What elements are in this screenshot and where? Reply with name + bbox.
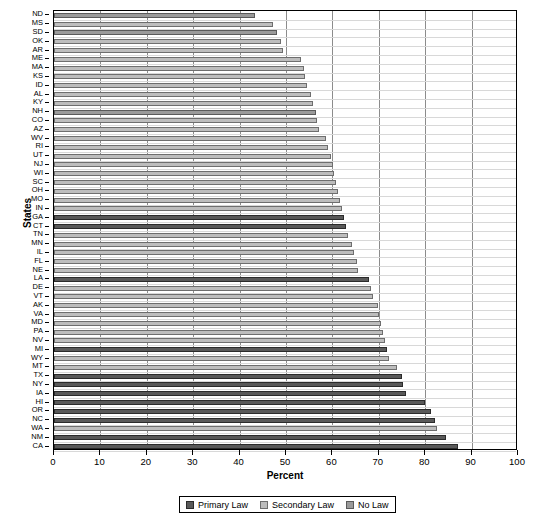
- y-tick-mark: [45, 190, 49, 191]
- row-separator: [54, 222, 516, 223]
- y-tick-mark: [45, 340, 49, 341]
- y-tick-label-sd: SD: [33, 28, 43, 36]
- y-tick-mark: [45, 102, 49, 103]
- y-tick-label-tn: TN: [33, 230, 43, 238]
- y-tick-mark: [45, 287, 49, 288]
- x-tick-label-30: 30: [187, 456, 198, 467]
- bar-wv: [54, 136, 326, 141]
- x-tick-label-0: 0: [50, 456, 55, 467]
- row-separator: [54, 125, 516, 126]
- bar-ca: [54, 444, 458, 449]
- y-tick-mark: [45, 199, 49, 200]
- bar-mo: [54, 198, 340, 203]
- row-separator: [54, 46, 516, 47]
- bar-wy: [54, 356, 389, 361]
- bar-de: [54, 286, 371, 291]
- legend-swatch-secondary: [260, 501, 268, 509]
- y-tick-label-nv: NV: [33, 336, 43, 344]
- x-tick-mark-10: [99, 450, 100, 455]
- x-tick-mark-40: [239, 450, 240, 455]
- y-tick-mark: [45, 67, 49, 68]
- y-tick-label-ny: NY: [33, 380, 43, 388]
- x-tick-label-50: 50: [280, 456, 291, 467]
- y-tick-label-wv: WV: [31, 134, 43, 142]
- bar-il: [54, 250, 354, 255]
- bar-mn: [54, 242, 352, 247]
- y-tick-label-me: ME: [32, 54, 43, 62]
- y-tick-label-va: VA: [34, 310, 43, 318]
- y-tick-mark: [45, 217, 49, 218]
- row-separator: [54, 266, 516, 267]
- legend-label-nolaw: No Law: [358, 500, 389, 510]
- x-tick-label-60: 60: [326, 456, 337, 467]
- bar-ks: [54, 74, 305, 79]
- bar-ok: [54, 39, 281, 44]
- bar-ar: [54, 48, 283, 53]
- x-tick-label-100: 100: [509, 456, 525, 467]
- y-tick-label-nc: NC: [32, 415, 43, 423]
- bar-wi: [54, 171, 334, 176]
- x-tick-mark-100: [517, 450, 518, 455]
- y-tick-mark: [45, 446, 49, 447]
- y-tick-mark: [45, 41, 49, 42]
- y-tick-label-nd: ND: [32, 10, 43, 18]
- y-tick-label-pa: PA: [34, 327, 43, 335]
- y-tick-mark: [45, 23, 49, 24]
- y-tick-label-in: IN: [36, 204, 44, 212]
- bar-nj: [54, 162, 333, 167]
- row-separator: [54, 398, 516, 399]
- y-tick-label-ms: MS: [32, 19, 43, 27]
- y-tick-mark: [45, 278, 49, 279]
- y-tick-mark: [45, 261, 49, 262]
- bar-ak: [54, 303, 378, 308]
- y-tick-mark: [45, 120, 49, 121]
- y-tick-label-il: IL: [37, 248, 43, 256]
- y-tick-mark: [45, 14, 49, 15]
- y-tick-mark: [45, 358, 49, 359]
- y-tick-label-ky: KY: [33, 98, 43, 106]
- bar-nm: [54, 435, 446, 440]
- y-tick-label-az: AZ: [33, 125, 43, 133]
- bar-tx: [54, 374, 402, 379]
- x-tick-mark-80: [424, 450, 425, 455]
- y-tick-mark: [45, 322, 49, 323]
- y-tick-mark: [45, 410, 49, 411]
- row-separator: [54, 354, 516, 355]
- legend-label-primary: Primary Law: [198, 500, 248, 510]
- x-tick-label-40: 40: [233, 456, 244, 467]
- y-tick-label-ga: GA: [32, 213, 43, 221]
- y-tick-mark: [45, 146, 49, 147]
- y-tick-mark: [45, 375, 49, 376]
- row-separator: [54, 90, 516, 91]
- x-axis-title: Percent: [53, 470, 517, 481]
- row-separator: [54, 257, 516, 258]
- y-tick-label-ar: AR: [33, 46, 43, 54]
- bar-sc: [54, 180, 336, 185]
- x-tick-label-20: 20: [141, 456, 152, 467]
- y-tick-label-or: OR: [32, 406, 43, 414]
- y-tick-label-sc: SC: [33, 178, 43, 186]
- chart-root: States NDMSSDOKARMEMAKSIDALKYNHCOAZWVRIU…: [0, 0, 544, 525]
- bar-sd: [54, 30, 277, 35]
- y-tick-label-ri: RI: [36, 142, 44, 150]
- y-axis-tick-labels: NDMSSDOKARMEMAKSIDALKYNHCOAZWVRIUTNJWISC…: [0, 10, 49, 450]
- row-separator: [54, 310, 516, 311]
- row-separator: [54, 37, 516, 38]
- y-tick-label-wy: WY: [31, 354, 43, 362]
- row-separator: [54, 442, 516, 443]
- bar-hi: [54, 400, 425, 405]
- y-tick-label-ia: IA: [36, 389, 43, 397]
- row-separator: [54, 389, 516, 390]
- y-tick-label-id: ID: [36, 81, 44, 89]
- bar-vt: [54, 294, 373, 299]
- bar-mt: [54, 365, 397, 370]
- y-tick-mark: [45, 252, 49, 253]
- y-tick-mark: [45, 419, 49, 420]
- y-tick-mark: [45, 366, 49, 367]
- y-tick-mark: [45, 111, 49, 112]
- y-tick-label-nm: NM: [31, 433, 43, 441]
- y-tick-mark: [45, 129, 49, 130]
- y-tick-mark: [45, 32, 49, 33]
- bar-ga: [54, 215, 344, 220]
- bar-ct: [54, 224, 346, 229]
